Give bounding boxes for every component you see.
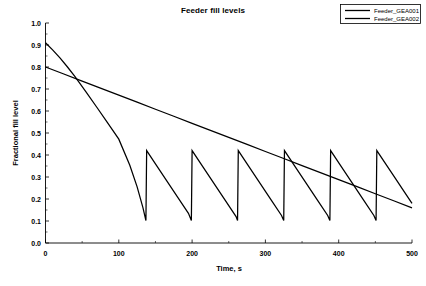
y-axis-label: Fractional fill level bbox=[11, 100, 20, 165]
y-tick-label-1: 0.1 bbox=[31, 218, 41, 225]
x-tick-label-4: 400 bbox=[333, 250, 345, 257]
y-tick-label-9: 0.9 bbox=[31, 42, 41, 49]
series-lines bbox=[46, 43, 413, 221]
series-line-0 bbox=[46, 67, 413, 208]
y-tick-label-8: 0.8 bbox=[31, 64, 41, 71]
axis-tickmarks bbox=[46, 23, 413, 243]
x-axis-tick-labels: 0100200300400500 bbox=[44, 250, 418, 257]
y-tick-label-2: 0.2 bbox=[31, 196, 41, 203]
y-axis-tick-labels: 0.00.10.20.30.40.50.60.70.80.91.0 bbox=[31, 20, 41, 247]
legend-label-0: Feeder_GEA001 bbox=[374, 8, 420, 14]
chart-legend: Feeder_GEA001 Feeder_GEA002 bbox=[341, 5, 421, 24]
legend-label-1: Feeder_GEA002 bbox=[374, 16, 420, 22]
series-line-1 bbox=[46, 43, 413, 221]
x-tick-label-2: 200 bbox=[186, 250, 198, 257]
x-tick-label-5: 500 bbox=[406, 250, 418, 257]
y-tick-label-5: 0.5 bbox=[31, 130, 41, 137]
y-tick-label-6: 0.6 bbox=[31, 108, 41, 115]
y-tick-label-10: 1.0 bbox=[31, 20, 41, 27]
y-tick-label-3: 0.3 bbox=[31, 174, 41, 181]
chart-figure: Feeder fill levels 0.00.10.20.30.40.50.6… bbox=[0, 0, 426, 286]
plot-canvas: 0.00.10.20.30.40.50.60.70.80.91.0 010020… bbox=[0, 0, 426, 286]
x-tick-label-1: 100 bbox=[113, 250, 125, 257]
y-tick-label-0: 0.0 bbox=[31, 240, 41, 247]
y-tick-label-7: 0.7 bbox=[31, 86, 41, 93]
x-tick-label-0: 0 bbox=[44, 250, 48, 257]
x-tick-label-3: 300 bbox=[260, 250, 272, 257]
y-tick-label-4: 0.4 bbox=[31, 152, 41, 159]
x-axis-label: Time, s bbox=[216, 264, 242, 273]
